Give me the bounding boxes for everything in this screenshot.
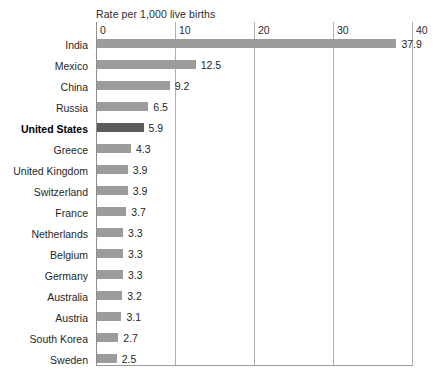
- bar-category-label: South Korea: [0, 333, 88, 346]
- bar-row: Greece4.3: [0, 141, 436, 162]
- bar-category-label: United Kingdom: [0, 165, 88, 178]
- bar-value-label: 3.3: [128, 227, 143, 239]
- bar-value-label: 3.7: [131, 206, 146, 218]
- bar-row: South Korea2.7: [0, 330, 436, 351]
- bar-value-label: 3.3: [128, 248, 143, 260]
- bar-category-label: Sweden: [0, 354, 88, 367]
- bar-category-label: United States: [0, 123, 88, 136]
- bar-row: Austria3.1: [0, 309, 436, 330]
- bar-row: China9.2: [0, 78, 436, 99]
- bar-value-label: 4.3: [136, 143, 151, 155]
- bar-row: Belgium3.3: [0, 246, 436, 267]
- bar-category-label: China: [0, 81, 88, 94]
- bar: [97, 312, 121, 321]
- bar-row: Switzerland3.9: [0, 183, 436, 204]
- bar: [97, 228, 123, 237]
- bar: [97, 207, 126, 216]
- bar-value-label: 9.2: [175, 80, 190, 92]
- bar-value-label: 5.9: [149, 122, 164, 134]
- bar-row: Mexico12.5: [0, 57, 436, 78]
- bar: [97, 165, 128, 174]
- bar-row: Netherlands3.3: [0, 225, 436, 246]
- bar-value-label: 3.9: [133, 185, 148, 197]
- bar-row: Australia3.2: [0, 288, 436, 309]
- bar-category-label: Australia: [0, 291, 88, 304]
- bar-category-label: Netherlands: [0, 228, 88, 241]
- bar-value-label: 3.1: [126, 311, 141, 323]
- bar-value-label: 3.3: [128, 269, 143, 281]
- bar: [97, 81, 170, 90]
- bar-row: India37.9: [0, 36, 436, 57]
- bar-category-label: Mexico: [0, 60, 88, 73]
- bar-chart: Rate per 1,000 live births 010203040 Ind…: [0, 0, 436, 372]
- bar-category-label: Russia: [0, 102, 88, 115]
- bar-rows: India37.9Mexico12.5China9.2Russia6.5Unit…: [0, 0, 436, 372]
- bar-value-label: 12.5: [201, 59, 221, 71]
- bar: [97, 60, 196, 69]
- bar: [97, 102, 148, 111]
- bar: [97, 186, 128, 195]
- bar-row: United Kingdom3.9: [0, 162, 436, 183]
- bar-value-label: 37.9: [401, 38, 421, 50]
- bar-row: United States5.9: [0, 120, 436, 141]
- bar-category-label: France: [0, 207, 88, 220]
- bar: [97, 123, 144, 132]
- bar-value-label: 3.2: [127, 290, 142, 302]
- bar: [97, 249, 123, 258]
- bar-row: Sweden2.5: [0, 351, 436, 372]
- bar-value-label: 6.5: [153, 101, 168, 113]
- bar: [97, 144, 131, 153]
- bar-value-label: 2.7: [123, 332, 138, 344]
- bar-value-label: 2.5: [122, 353, 137, 365]
- bar-value-label: 3.9: [133, 164, 148, 176]
- bar: [97, 354, 117, 363]
- bar-category-label: Greece: [0, 144, 88, 157]
- bar-category-label: Austria: [0, 312, 88, 325]
- bar: [97, 291, 122, 300]
- bar: [97, 39, 396, 48]
- bar: [97, 270, 123, 279]
- bar-category-label: Germany: [0, 270, 88, 283]
- bar-row: Russia6.5: [0, 99, 436, 120]
- bar-row: France3.7: [0, 204, 436, 225]
- bar-category-label: India: [0, 39, 88, 52]
- bar: [97, 333, 118, 342]
- bar-row: Germany3.3: [0, 267, 436, 288]
- bar-category-label: Switzerland: [0, 186, 88, 199]
- bar-category-label: Belgium: [0, 249, 88, 262]
